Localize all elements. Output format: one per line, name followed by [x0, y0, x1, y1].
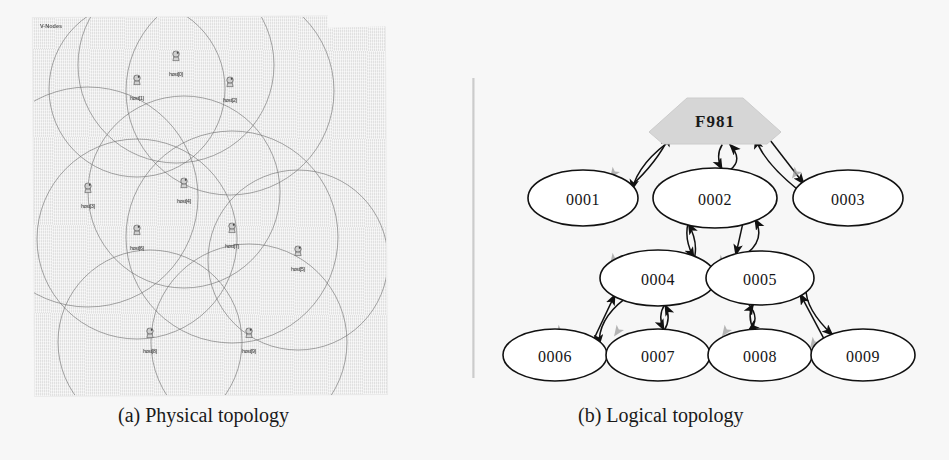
logical-node-label: 0004: [641, 271, 675, 288]
host-node-icon: [226, 77, 235, 88]
host-node-label: host[0]: [169, 71, 183, 77]
host-node-icon: [245, 328, 254, 339]
host-node-label: host[8]: [143, 348, 157, 354]
logical-edge: [736, 223, 743, 256]
coverage-circle: [34, 87, 198, 307]
host-node-icon: [172, 51, 181, 62]
logical-node-label: 0007: [641, 348, 675, 365]
physical-window-title: V-Nodes: [40, 23, 62, 29]
host-node-icon: [228, 223, 237, 234]
host-node-label: host[7]: [225, 243, 239, 249]
caption-logical: (b) Logical topology: [578, 404, 744, 427]
logical-node-label: 0002: [698, 191, 732, 208]
logical-node-group: F981000100020003000400050006000700080009: [503, 98, 915, 381]
logical-topology-panel: F981000100020003000400050006000700080009: [470, 80, 949, 405]
coverage-circle: [37, 139, 237, 339]
coverage-circle: [88, 96, 280, 288]
logical-edge: [729, 144, 736, 171]
logical-edge: [661, 304, 665, 330]
physical-topology-panel: V-Nodes host[0]host[1]host[2]host[3]host…: [34, 17, 386, 395]
logical-edge: [719, 144, 723, 169]
host-node-label: host[6]: [130, 245, 144, 251]
figure-page: V-Nodes host[0]host[1]host[2]host[3]host…: [0, 0, 949, 460]
host-node-label: host[4]: [177, 198, 191, 204]
host-node-icon: [84, 183, 93, 194]
host-node-icon: [146, 328, 155, 339]
caption-physical: (a) Physical topology: [118, 404, 289, 427]
logical-node-label: 0005: [743, 271, 777, 288]
host-node-icon: [133, 225, 142, 236]
host-node-label: host[1]: [130, 95, 144, 101]
host-node-icon: [180, 178, 189, 189]
logical-node-label: 0008: [743, 348, 777, 365]
logical-node-label: 0009: [846, 348, 880, 365]
host-node-icon: [294, 246, 303, 257]
logical-edge: [800, 293, 825, 340]
logical-edge-group: [552, 132, 833, 351]
coverage-circle: [151, 244, 347, 395]
logical-node-label: 0006: [538, 348, 572, 365]
coverage-circle: [78, 17, 274, 163]
root-node-label: F981: [695, 112, 735, 131]
host-node-label: host[5]: [291, 266, 305, 272]
logical-topology-canvas: F981000100020003000400050006000700080009: [470, 80, 949, 405]
logical-node-label: 0003: [831, 191, 865, 208]
host-node-label: host[9]: [242, 348, 256, 354]
coverage-circle: [126, 17, 334, 195]
host-node-label: host[2]: [223, 97, 237, 103]
logical-node-label: 0001: [566, 191, 600, 208]
host-node-icon: [133, 75, 142, 86]
coverage-circle: [126, 131, 338, 343]
logical-edge: [664, 304, 668, 330]
logical-edge: [593, 294, 615, 340]
host-node-label: host[3]: [81, 203, 95, 209]
coverage-circle: [58, 250, 242, 395]
